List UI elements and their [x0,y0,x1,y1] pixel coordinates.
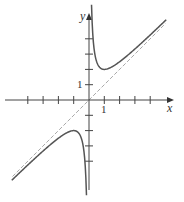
x-axis-label: x [166,101,173,115]
chart: y x 1 1 [0,0,184,202]
y-tick-label-1: 1 [77,78,83,90]
y-axis-label: y [79,9,86,23]
x-tick-label-1: 1 [101,103,107,115]
